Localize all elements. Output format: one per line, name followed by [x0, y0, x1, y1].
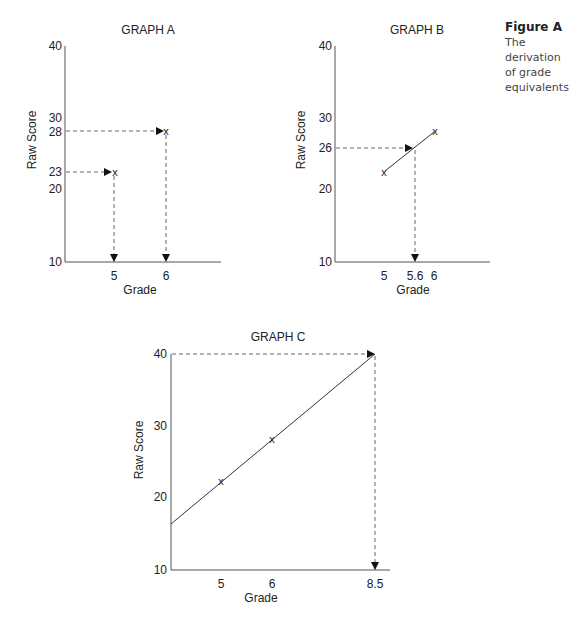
graph-b-ytick-40: 40: [319, 39, 333, 53]
graph-b-ytick-30: 30: [319, 111, 333, 125]
graph-c-point-5: x: [218, 475, 224, 487]
graph-c-ytick-40: 40: [154, 347, 168, 361]
graph-a-ytick-28: 28: [49, 125, 63, 139]
graph-c-xtick-8-5: 8.5: [367, 577, 384, 591]
graph-b-xtick-6: 6: [431, 269, 438, 283]
graph-b-ytick-26: 26: [319, 141, 333, 155]
graph-b-xtick-5: 5: [381, 269, 388, 283]
graph-a-point-6: x: [163, 125, 169, 137]
graph-c: GRAPH C 40 30 20 10 5 6 8.5 Grade Raw Sc…: [132, 330, 390, 605]
graph-b-xtick-5-6: 5.6: [407, 269, 424, 283]
graph-c-title: GRAPH C: [251, 330, 306, 344]
graph-a-xlabel: Grade: [123, 283, 157, 297]
graph-b-ylabel: Raw Score: [294, 110, 308, 169]
graph-a-point-5: x: [112, 166, 118, 178]
graph-b-title: GRAPH B: [390, 23, 444, 37]
graph-c-ytick-10: 10: [154, 563, 168, 577]
graph-b-xlabel: Grade: [396, 283, 430, 297]
figure-canvas: GRAPH A 40 30 28 23 20 10 5 6 Grade Raw …: [0, 0, 577, 630]
graph-c-xtick-5: 5: [218, 577, 225, 591]
graph-a-ylabel: Raw Score: [25, 110, 39, 169]
graph-b-line: [385, 132, 434, 171]
graph-c-xtick-6: 6: [269, 577, 276, 591]
graph-a-ytick-30: 30: [49, 111, 63, 125]
graph-a-ytick-10: 10: [49, 255, 63, 269]
graph-a-title: GRAPH A: [121, 23, 174, 37]
graph-b-point-5: x: [381, 166, 387, 178]
graph-b-ytick-20: 20: [319, 182, 333, 196]
graph-b-ytick-10: 10: [319, 255, 333, 269]
graph-c-ytick-30: 30: [154, 419, 168, 433]
graph-c-ytick-20: 20: [154, 490, 168, 504]
graph-c-point-6: x: [269, 433, 275, 445]
graph-a-xtick-5: 5: [111, 269, 118, 283]
graph-a-xtick-6: 6: [163, 269, 170, 283]
graph-a: GRAPH A 40 30 28 23 20 10 5 6 Grade Raw …: [25, 23, 221, 297]
graph-c-ylabel: Raw Score: [132, 420, 146, 479]
graph-b: GRAPH B 40 30 26 20 10 5 5.6 6 Grade Raw…: [294, 23, 490, 297]
graph-a-ytick-20: 20: [49, 182, 63, 196]
graph-a-ytick-23: 23: [49, 165, 63, 179]
graph-a-ytick-40: 40: [49, 39, 63, 53]
graph-c-xlabel: Grade: [244, 591, 278, 605]
graph-b-point-6: x: [432, 125, 438, 137]
